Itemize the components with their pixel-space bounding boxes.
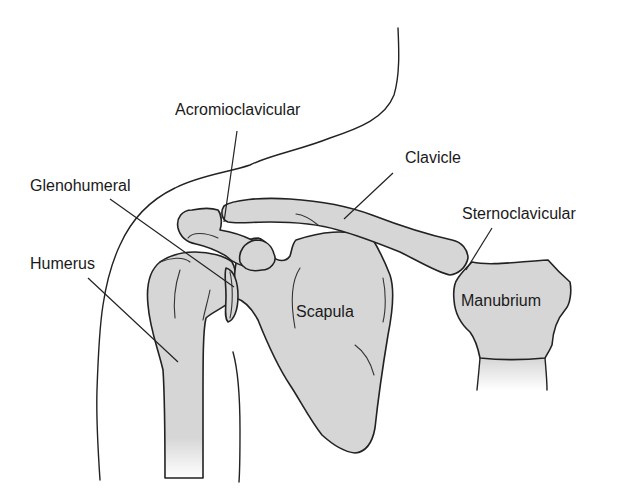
label-manubrium: Manubrium — [461, 293, 541, 309]
inner-arm-outline — [233, 352, 240, 482]
manubrium-bone — [454, 260, 571, 360]
anatomy-illustration — [0, 0, 628, 498]
label-sternoclavicular: Sternoclavicular — [462, 206, 576, 222]
label-clavicle: Clavicle — [405, 150, 461, 166]
humerus-bone — [148, 252, 236, 478]
label-acromioclavicular: Acromioclavicular — [175, 102, 300, 118]
shoulder-anatomy-diagram: Acromioclavicular Clavicle Glenohumeral … — [0, 0, 628, 498]
label-scapula: Scapula — [296, 304, 354, 320]
label-humerus: Humerus — [30, 256, 95, 272]
leader-clavicle — [344, 173, 393, 219]
label-glenohumeral: Glenohumeral — [30, 178, 131, 194]
sternum-body — [478, 358, 548, 390]
coracoid-process — [240, 240, 275, 271]
